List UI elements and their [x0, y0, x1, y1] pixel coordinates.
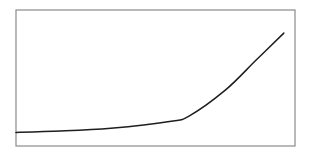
line-chart: [0, 0, 309, 161]
chart-frame: [16, 10, 295, 146]
data-curve: [16, 33, 284, 132]
